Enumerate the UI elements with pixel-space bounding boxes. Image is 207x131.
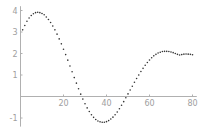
data-point [84,103,86,105]
data-point [170,51,172,53]
data-point [80,93,82,95]
data-point [78,88,80,90]
data-point [149,59,151,61]
data-point [37,11,39,13]
data-point [172,52,174,54]
data-point [129,89,131,91]
data-point [28,17,30,19]
data-point [93,117,95,119]
data-point [106,121,108,123]
data-point [168,51,170,53]
data-point [91,114,93,116]
data-point [166,51,168,53]
data-point [104,122,106,124]
data-point [61,43,63,45]
data-point [35,12,37,14]
data-point [190,54,192,56]
data-point [138,74,140,76]
data-point [121,105,123,107]
data-point [157,52,159,54]
data-point [26,20,28,22]
x-tick-label: 40 [101,99,111,108]
data-point [95,119,97,121]
data-point [73,77,75,79]
data-point [69,65,71,67]
data-point [144,65,146,67]
data-point [164,51,166,53]
axes: 204060804321-1 [10,6,198,126]
data-point [48,19,50,21]
data-point [127,93,129,95]
data-point [41,13,43,15]
data-point [147,62,149,64]
data-point [125,97,127,99]
data-point [183,53,185,55]
data-point [99,121,101,123]
data-point [177,54,179,56]
data-point [67,59,69,61]
data-point [162,51,164,53]
data-point [136,78,138,80]
data-point [159,51,161,53]
data-point [76,82,78,84]
y-tick-label: 2 [12,50,17,59]
x-tick-label: 20 [58,99,68,108]
data-point [43,14,45,16]
data-point [155,54,157,56]
data-point [30,15,32,17]
y-tick-label: -1 [10,114,18,123]
data-point [65,54,67,56]
data-point [153,55,155,57]
data-point [187,53,189,55]
data-point [33,13,35,15]
data-point [151,57,153,59]
data-point [22,29,24,31]
data-point [114,114,116,116]
data-point [82,98,84,100]
data-point [54,29,56,31]
data-point [134,82,136,84]
x-tick-label: 60 [144,99,154,108]
y-tick-label: 4 [12,7,17,16]
data-point [112,116,114,118]
y-tick-label: 3 [12,28,17,37]
data-point [56,33,58,35]
data-point [89,111,91,113]
data-point [58,38,60,40]
data-point [192,54,194,56]
data-point [97,120,99,122]
data-point [110,118,112,120]
x-tick-label: 80 [187,99,197,108]
data-point [175,53,177,55]
data-point [39,12,41,14]
data-point [86,107,88,109]
data-point [181,54,183,56]
scatter-chart: 204060804321-1 [0,0,207,131]
data-point [140,71,142,73]
data-point [50,22,52,24]
data-point [63,48,65,50]
data-point [24,25,26,27]
data-point [52,25,54,27]
data-point [179,54,181,56]
data-point [116,111,118,113]
data-point [142,68,144,70]
data-point [46,16,48,18]
data-point [123,101,125,103]
data-point [119,108,121,110]
data-point [108,120,110,122]
y-tick-label: 1 [12,71,17,80]
data-point [71,71,73,73]
data-point [101,122,103,124]
data-point [132,85,134,87]
data-point [185,53,187,55]
